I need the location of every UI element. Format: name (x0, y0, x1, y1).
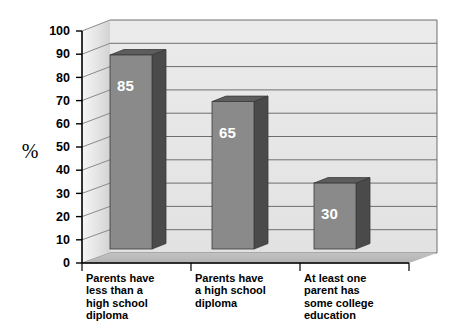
y-tick-label: 0 (36, 257, 70, 270)
y-tick-label: 70 (36, 95, 70, 108)
y-tick-label: 30 (36, 188, 70, 201)
x-category-label: At least one parent has some college edu… (304, 272, 408, 322)
plot-side-wall (82, 20, 110, 263)
plot-floor (82, 253, 437, 263)
bar-value-label: 30 (321, 206, 338, 221)
y-tick-label: 20 (36, 211, 70, 224)
y-tick-label: 10 (36, 234, 70, 247)
y-tick-label: 50 (36, 141, 70, 154)
y-axis-ticks (76, 31, 82, 263)
bar-series-item (212, 96, 268, 249)
y-tick-label: 60 (36, 118, 70, 131)
x-axis-ticks (82, 263, 409, 271)
y-tick-label: 100 (36, 25, 70, 38)
y-tick-label: 90 (36, 48, 70, 61)
bar-chart-figure: % 100 90 80 70 60 50 40 30 20 10 0 85 65… (0, 0, 450, 336)
bar-value-label: 85 (117, 78, 134, 93)
x-category-label: Parents have a high school diploma (195, 272, 299, 309)
x-category-label: Parents have less than a high school dip… (86, 272, 190, 322)
bar-value-label: 65 (219, 125, 236, 140)
y-tick-label: 40 (36, 164, 70, 177)
y-tick-label: 80 (36, 72, 70, 85)
